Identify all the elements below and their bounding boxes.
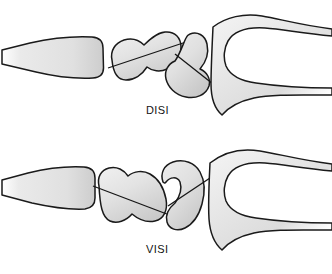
bone-lunate-visi: [162, 161, 210, 230]
panel-visi: [2, 150, 332, 250]
panel-label-disi: DISI: [146, 104, 169, 116]
panel-disi: [2, 15, 332, 115]
bone-capitate-disi: [211, 15, 332, 115]
bone-radius-visi: [2, 167, 95, 209]
bone-scaphoid-visi: [93, 167, 172, 222]
carpal-instability-illustration: [0, 0, 332, 274]
figure-canvas: DISI VISI: [0, 0, 332, 274]
bone-capitate-visi: [209, 150, 332, 250]
panel-label-visi: VISI: [146, 243, 168, 255]
bone-radius-disi: [2, 37, 104, 78]
